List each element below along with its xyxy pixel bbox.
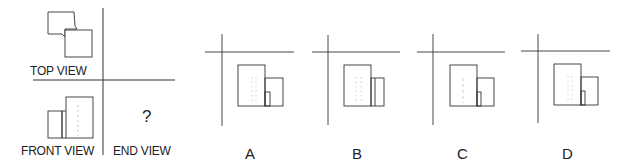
option-b-label[interactable]: B bbox=[352, 145, 362, 162]
option-c-drawing bbox=[417, 34, 505, 125]
option-d-label[interactable]: D bbox=[562, 145, 573, 162]
top-view-drawing bbox=[48, 12, 92, 57]
option-d-drawing bbox=[521, 34, 610, 123]
front-view-drawing bbox=[48, 97, 93, 138]
option-c-label[interactable]: C bbox=[457, 145, 468, 162]
front-view-label: FRONT VIEW bbox=[21, 144, 94, 158]
end-view-question-mark: ? bbox=[142, 107, 151, 127]
top-view-label: TOP VIEW bbox=[30, 64, 87, 78]
option-a-label[interactable]: A bbox=[245, 145, 255, 162]
option-a-drawing bbox=[205, 34, 294, 126]
end-view-label: END VIEW bbox=[113, 144, 171, 158]
projection-diagram bbox=[0, 0, 626, 168]
option-b-drawing bbox=[312, 35, 400, 125]
